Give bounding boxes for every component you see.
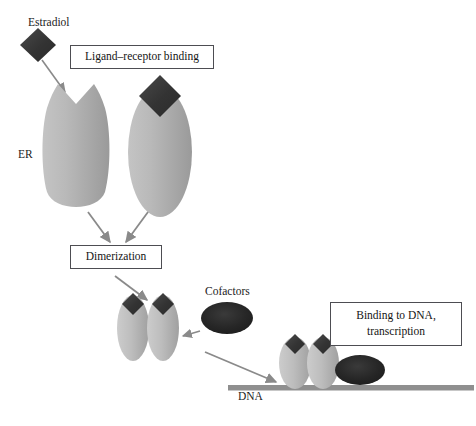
callout-binding-to-dna-line2: transcription xyxy=(367,324,425,340)
estradiol-ligand-diamond-free xyxy=(20,28,56,62)
cofactor-ellipse-bound xyxy=(335,355,385,385)
callout-dimerization-text: Dimerization xyxy=(86,249,147,265)
callout-ligand-receptor-binding-text: Ligand–receptor binding xyxy=(85,49,199,65)
callout-binding-to-dna-line1: Binding to DNA, xyxy=(356,308,436,324)
arrow-estradiol-to-receptor xyxy=(42,60,65,92)
dna-label: DNA xyxy=(238,390,263,403)
arrow-dimer-to-dna-complex xyxy=(205,352,276,382)
arrow-left-receptor-to-dimerization xyxy=(88,212,110,242)
dna-strand-bar xyxy=(228,385,474,391)
er-label: ER xyxy=(18,148,33,161)
estradiol-label: Estradiol xyxy=(28,16,70,29)
cofactor-ellipse-free xyxy=(201,302,253,334)
arrow-right-receptor-to-dimerization xyxy=(126,212,148,242)
diagram-canvas: Estradiol ER Cofactors DNA Ligand–recept… xyxy=(0,0,476,426)
callout-dimerization: Dimerization xyxy=(70,245,162,269)
receptor-dimer xyxy=(117,293,179,361)
callout-binding-to-dna-transcription: Binding to DNA, transcription xyxy=(330,302,462,346)
er-receptor-unbound xyxy=(43,84,110,207)
arrow-cofactors-to-dimer xyxy=(183,331,200,336)
cofactors-label: Cofactors xyxy=(205,285,250,298)
callout-ligand-receptor-binding: Ligand–receptor binding xyxy=(70,45,214,69)
er-receptor-ligand-bound xyxy=(128,75,192,217)
